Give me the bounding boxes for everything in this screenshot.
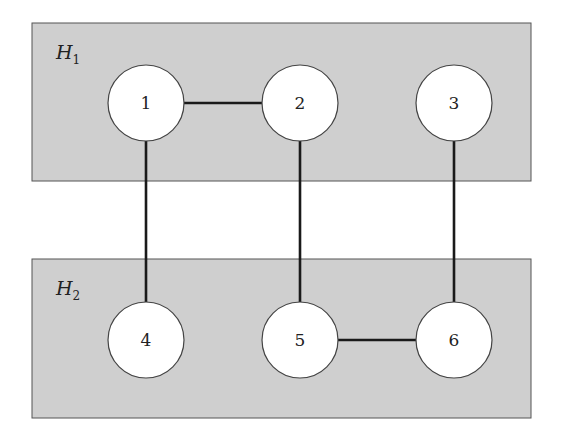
node-2: 2: [262, 65, 338, 141]
node-label: 2: [295, 93, 306, 113]
node-4: 4: [108, 302, 184, 378]
node-label: 3: [449, 93, 460, 113]
node-label: 5: [295, 330, 306, 350]
node-label: 1: [141, 93, 152, 113]
node-6: 6: [416, 302, 492, 378]
hypergraph-diagram: H1H2 123456: [0, 0, 562, 445]
node-5: 5: [262, 302, 338, 378]
node-1: 1: [108, 65, 184, 141]
node-label: 6: [449, 330, 460, 350]
node-3: 3: [416, 65, 492, 141]
node-label: 4: [141, 330, 152, 350]
